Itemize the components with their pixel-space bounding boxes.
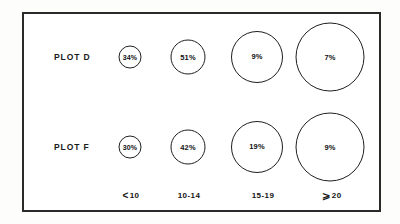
bubble-value: 30% <box>123 144 138 151</box>
bubble-plot-f-15-19: 19% <box>231 121 283 173</box>
category-label-15-19: 15-19 <box>252 191 274 200</box>
category-label-text: 15-19 <box>252 191 274 200</box>
bubble-value: 9% <box>251 53 262 61</box>
bubble-plot-f-lt10: 30% <box>119 136 142 159</box>
bubble-plot-d-15-19: 9% <box>231 31 283 83</box>
bubble-plot-d-10-14: 51% <box>171 40 206 75</box>
figure-root: PLOT D PLOT F 34% 51% 9% 7% 30% 42% 19% … <box>0 0 400 224</box>
bubble-plot-f-gte20: 9% <box>296 113 365 182</box>
category-label-10-14: 10-14 <box>178 191 200 200</box>
bubble-value: 42% <box>180 143 196 151</box>
category-label-text: 20 <box>332 191 342 200</box>
category-label-lt10: <10 <box>123 190 140 201</box>
bubble-plot-d-lt10: 34% <box>119 46 142 69</box>
bubble-value: 7% <box>324 53 335 61</box>
category-label-text: 10-14 <box>178 191 200 200</box>
category-label-text: 10 <box>130 191 140 200</box>
bubble-value: 51% <box>180 53 196 61</box>
bubble-plot-f-10-14: 42% <box>171 130 206 165</box>
row-label-plot-f: PLOT F <box>54 142 90 152</box>
category-label-gte20: ⩾20 <box>322 190 341 201</box>
greater-than-or-equal-icon: ⩾ <box>322 190 331 201</box>
bubble-plot-d-gte20: 7% <box>296 23 365 92</box>
bubble-value: 34% <box>123 54 138 61</box>
bubble-value: 9% <box>324 143 335 151</box>
bubble-value: 19% <box>249 143 265 151</box>
row-label-plot-d: PLOT D <box>54 52 91 62</box>
